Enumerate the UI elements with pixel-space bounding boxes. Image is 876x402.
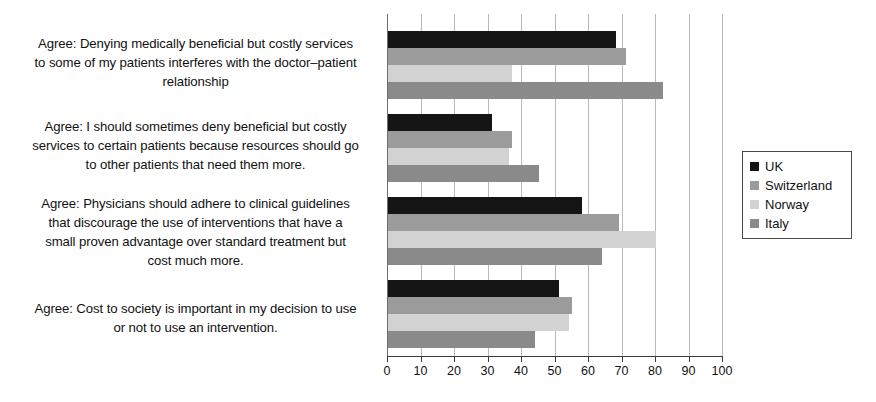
category-label-line: to some of my patients interferes with t… xyxy=(8,53,383,72)
bar-italy-group-2 xyxy=(388,165,539,182)
x-tick-label: 0 xyxy=(384,364,391,378)
x-tick-90 xyxy=(689,356,690,362)
x-tick-label: 90 xyxy=(682,364,696,378)
legend-swatch-icon xyxy=(750,181,759,190)
category-label-line: relationship xyxy=(8,72,383,91)
gridline-100 xyxy=(722,14,723,356)
category-label-4: Agree: Cost to society is important in m… xyxy=(8,299,383,337)
category-label-line: services to certain patients because res… xyxy=(8,136,383,155)
bar-uk-group-4 xyxy=(388,280,559,297)
legend-label: Norway xyxy=(765,198,809,211)
legend-item-switzerland[interactable]: Switzerland xyxy=(750,176,845,195)
x-tick-60 xyxy=(588,356,589,362)
category-label-line: Agree: Cost to society is important in m… xyxy=(8,299,383,318)
category-axis-labels: Agree: Denying medically beneficial but … xyxy=(8,18,383,358)
x-tick-50 xyxy=(555,356,556,362)
category-label-line: to other patients that need them more. xyxy=(8,155,383,174)
category-label-line: Agree: Physicians should adhere to clini… xyxy=(8,194,383,213)
horizontal-bar-chart: Agree: Denying medically beneficial but … xyxy=(0,0,876,402)
x-tick-label: 50 xyxy=(548,364,562,378)
bar-italy-group-3 xyxy=(388,248,602,265)
bar-norway-group-4 xyxy=(388,314,569,331)
bar-switzerland-group-4 xyxy=(388,297,572,314)
x-tick-10 xyxy=(421,356,422,362)
category-label-line: Agree: I should sometimes deny beneficia… xyxy=(8,117,383,136)
category-label-line: Agree: Denying medically beneficial but … xyxy=(8,34,383,53)
legend-item-norway[interactable]: Norway xyxy=(750,195,845,214)
bar-norway-group-2 xyxy=(388,148,509,165)
bar-uk-group-2 xyxy=(388,114,492,131)
x-tick-label: 40 xyxy=(514,364,528,378)
x-tick-100 xyxy=(722,356,723,362)
x-tick-80 xyxy=(655,356,656,362)
x-tick-40 xyxy=(521,356,522,362)
gridline-80 xyxy=(655,14,656,356)
bar-uk-group-1 xyxy=(388,31,616,48)
legend-swatch-icon xyxy=(750,162,759,171)
x-tick-label: 80 xyxy=(648,364,662,378)
x-tick-20 xyxy=(454,356,455,362)
x-tick-label: 30 xyxy=(481,364,495,378)
bar-italy-group-1 xyxy=(388,82,663,99)
legend-item-uk[interactable]: UK xyxy=(750,157,845,176)
x-tick-label: 70 xyxy=(615,364,629,378)
legend-label: Switzerland xyxy=(765,179,832,192)
bar-italy-group-4 xyxy=(388,331,535,348)
legend-item-italy[interactable]: Italy xyxy=(750,214,845,233)
category-label-line: small proven advantage over standard tre… xyxy=(8,232,383,251)
category-label-line: that discourage the use of interventions… xyxy=(8,213,383,232)
x-tick-label: 60 xyxy=(581,364,595,378)
x-tick-label: 10 xyxy=(414,364,428,378)
x-tick-label: 20 xyxy=(447,364,461,378)
legend-label: UK xyxy=(765,160,783,173)
bar-switzerland-group-1 xyxy=(388,48,626,65)
x-tick-30 xyxy=(488,356,489,362)
legend-swatch-icon xyxy=(750,200,759,209)
bar-uk-group-3 xyxy=(388,197,582,214)
gridline-70 xyxy=(622,14,623,356)
plot-area: 0102030405060708090100 xyxy=(387,14,722,356)
bar-switzerland-group-3 xyxy=(388,214,619,231)
category-label-1: Agree: Denying medically beneficial but … xyxy=(8,34,383,91)
gridline-60 xyxy=(588,14,589,356)
gridline-90 xyxy=(689,14,690,356)
category-label-3: Agree: Physicians should adhere to clini… xyxy=(8,194,383,270)
bar-norway-group-1 xyxy=(388,65,512,82)
category-label-line: cost much more. xyxy=(8,251,383,270)
x-tick-0 xyxy=(387,356,388,362)
x-tick-70 xyxy=(622,356,623,362)
x-tick-label: 100 xyxy=(712,364,733,378)
bar-switzerland-group-2 xyxy=(388,131,512,148)
bar-norway-group-3 xyxy=(388,231,656,248)
chart-legend: UKSwitzerlandNorwayItaly xyxy=(742,151,852,239)
category-label-2: Agree: I should sometimes deny beneficia… xyxy=(8,117,383,174)
legend-label: Italy xyxy=(765,217,789,230)
legend-swatch-icon xyxy=(750,219,759,228)
category-label-line: or not to use an intervention. xyxy=(8,318,383,337)
